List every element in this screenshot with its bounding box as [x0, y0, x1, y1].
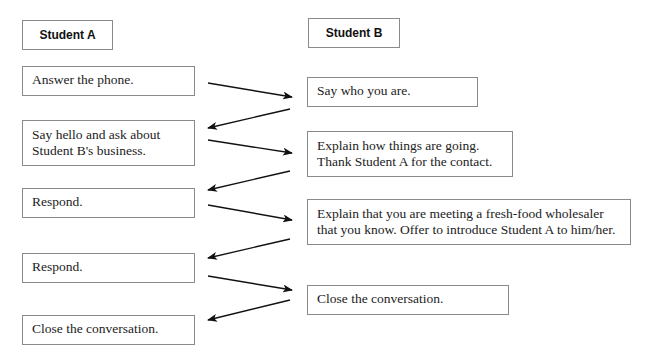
arrow-b1-to-a2 [208, 109, 290, 128]
student-b-step-2: Explain how things are going. Thank Stud… [307, 131, 513, 177]
student-a-header: Student A [22, 20, 113, 50]
arrow-a4-to-b4 [208, 276, 292, 290]
student-a-step-3: Respond. [22, 188, 195, 218]
student-b-step-3: Explain that you are meeting a fresh-foo… [307, 199, 631, 245]
arrow-b3-to-a4 [208, 239, 290, 258]
arrow-b2-to-a3 [208, 171, 290, 190]
student-a-step-4: Respond. [22, 253, 195, 283]
student-a-step-5: Close the conversation. [22, 315, 195, 345]
student-b-step-1: Say who you are. [307, 77, 478, 107]
arrow-a2-to-b2 [208, 140, 292, 153]
arrow-a3-to-b3 [208, 205, 292, 220]
student-a-label: Student A [39, 28, 95, 42]
student-b-label: Student B [326, 26, 383, 40]
student-a-step-2: Say hello and ask about Student B's busi… [22, 120, 195, 166]
student-b-step-4: Close the conversation. [307, 285, 509, 315]
student-b-header: Student B [308, 18, 400, 48]
conversation-flow-diagram: Student A Student B Answer the phone. Sa… [0, 0, 647, 359]
arrow-b4-to-a5 [208, 300, 290, 320]
student-a-step-1: Answer the phone. [22, 66, 195, 96]
arrow-a1-to-b1 [208, 83, 292, 97]
